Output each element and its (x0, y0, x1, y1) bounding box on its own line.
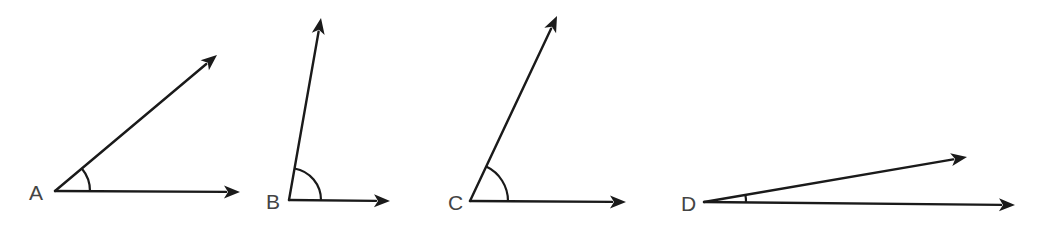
arm-ray (470, 29, 551, 201)
angle-diagram: ABCD (0, 0, 1044, 230)
base-ray (470, 201, 612, 202)
angle-c: C (448, 16, 626, 214)
angle-arc (82, 168, 90, 191)
arm-ray (704, 159, 953, 202)
angle-b: B (266, 18, 390, 213)
arm-ray (289, 32, 319, 200)
vertex-label: B (266, 190, 280, 213)
arm-ray (55, 64, 206, 191)
base-ray (55, 191, 226, 192)
vertex-label: A (29, 181, 43, 204)
angle-arc (486, 167, 508, 202)
angle-arc (745, 195, 746, 202)
angle-d: D (681, 153, 1015, 215)
vertex-label: D (681, 192, 696, 215)
angle-arc (295, 168, 321, 200)
base-ray (704, 202, 1001, 205)
base-ray (289, 200, 376, 201)
angle-a: A (29, 55, 240, 204)
vertex-label: C (448, 191, 463, 214)
